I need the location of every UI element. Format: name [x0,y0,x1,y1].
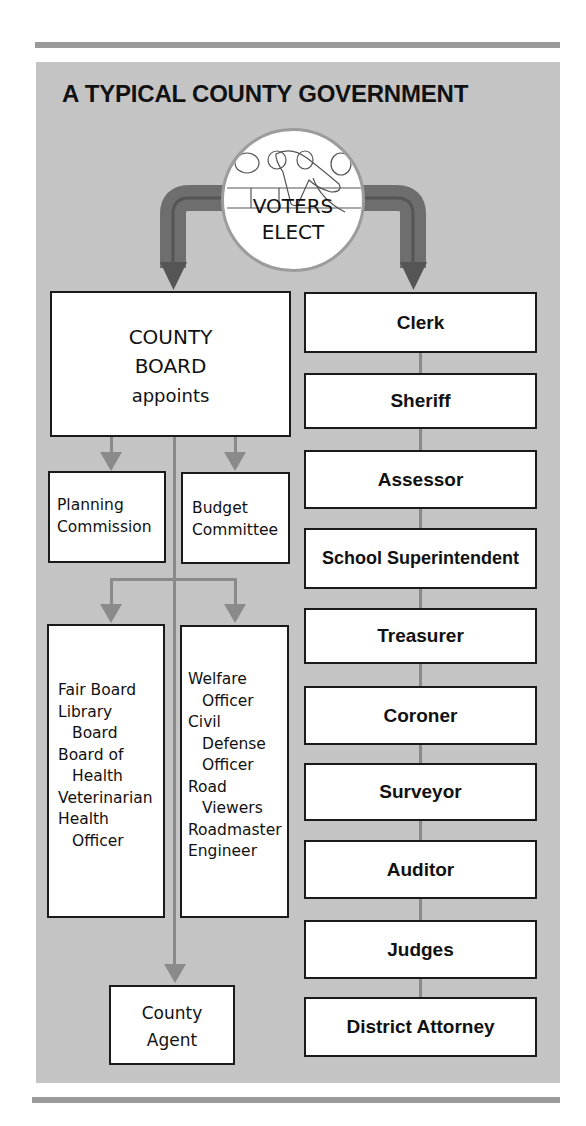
list-item: Fair Board [58,680,153,702]
county-agent-line1: County [111,1000,233,1027]
elected-box-school-superintendent: School Superintendent [304,528,537,589]
arrowhead-planning [100,452,122,471]
county-board-line2: BOARD [52,352,289,381]
arrowhead-county-agent [164,964,186,983]
elected-box-auditor: Auditor [304,840,537,899]
elected-label: School Superintendent [322,548,519,569]
planning-commission-box: Planning Commission [48,471,166,563]
elect-label: ELECT [224,219,362,245]
appoint-line-lower-right [234,578,237,604]
elected-connector-line [419,352,422,998]
elected-box-clerk: Clerk [304,292,537,353]
list-item: Welfare [188,669,282,691]
elected-box-treasurer: Treasurer [304,608,537,664]
list-item: Officer [188,755,282,777]
elected-label: Assessor [378,469,464,491]
voters-label: VOTERS [224,193,362,219]
elected-label: Coroner [384,705,458,727]
elected-label: District Attorney [346,1016,494,1038]
budget-committee-box: Budget Committee [181,472,290,564]
bottom-rule [32,1097,560,1103]
county-board-box: COUNTY BOARD appoints [50,291,291,437]
elected-box-district-attorney: District Attorney [304,997,537,1057]
elected-label: Sheriff [390,390,450,412]
county-agent-line2: Agent [111,1027,233,1054]
list-item: Veterinarian [58,788,153,810]
budget-line2: Committee [192,520,278,542]
elected-box-assessor: Assessor [304,450,537,509]
planning-line1: Planning [57,495,152,517]
list-item: Civil [188,712,282,734]
elected-box-coroner: Coroner [304,686,537,745]
boards-health-box: Fair Board Library Board Board of Health… [47,624,165,918]
list-item: Engineer [188,841,282,863]
elected-box-sheriff: Sheriff [304,373,537,429]
list-item: Defense [188,734,282,756]
budget-line1: Budget [192,498,278,520]
arrowhead-lower-left [100,604,122,623]
list-item: Viewers [188,798,282,820]
arrowhead-lower-right [224,604,246,623]
elected-label: Treasurer [377,625,464,647]
appoint-trunk-line [173,437,176,965]
county-board-appoints: appoints [52,381,289,410]
list-item: Health [58,766,153,788]
elected-label: Clerk [397,312,445,334]
elected-label: Surveyor [379,781,461,803]
appoint-branch-line [110,578,237,581]
county-board-line1: COUNTY [52,323,289,352]
voters-elect-circle: VOTERS ELECT [221,128,365,272]
list-item: Road [188,777,282,799]
list-item: Health [58,809,153,831]
elected-label: Auditor [387,859,455,881]
list-item: Library [58,702,153,724]
elected-box-surveyor: Surveyor [304,763,537,821]
elected-box-judges: Judges [304,920,537,979]
appoint-line-lower-left [110,578,113,604]
list-item: Board [58,723,153,745]
list-item: Officer [58,831,153,853]
list-item: Officer [188,691,282,713]
list-item: Board of [58,745,153,767]
list-item: Roadmaster [188,820,282,842]
arrowhead-budget [224,452,246,471]
county-agent-box: County Agent [109,985,235,1065]
planning-line2: Commission [57,517,152,539]
officers-box: Welfare Officer Civil Defense Officer Ro… [180,625,289,918]
elected-label: Judges [387,939,454,961]
